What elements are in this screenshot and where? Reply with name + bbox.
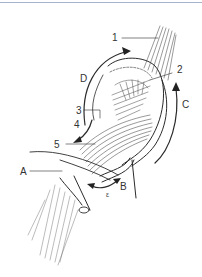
arrow-c bbox=[155, 88, 177, 163]
label-d: D bbox=[80, 74, 87, 84]
label-2: 2 bbox=[177, 65, 183, 75]
label-4: 4 bbox=[74, 120, 80, 130]
label-b: B bbox=[120, 182, 127, 192]
outer-capsule bbox=[108, 58, 164, 165]
lower-limb-hatching bbox=[28, 185, 78, 265]
label-5: 5 bbox=[54, 140, 60, 150]
label-c: C bbox=[182, 100, 189, 110]
label-mark: ε bbox=[106, 190, 109, 200]
tendon-structure bbox=[144, 26, 176, 80]
anatomical-illustration bbox=[0, 0, 202, 277]
label-3: 3 bbox=[76, 106, 82, 116]
label-1: 1 bbox=[112, 33, 118, 43]
inner-hatching bbox=[112, 80, 150, 120]
label-a: A bbox=[20, 167, 27, 177]
